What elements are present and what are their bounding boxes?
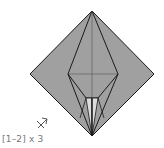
repeat-label: [1–2] x 3	[2, 134, 44, 144]
origami-diagram	[0, 0, 164, 148]
turn-over-arrow-icon	[37, 118, 47, 128]
